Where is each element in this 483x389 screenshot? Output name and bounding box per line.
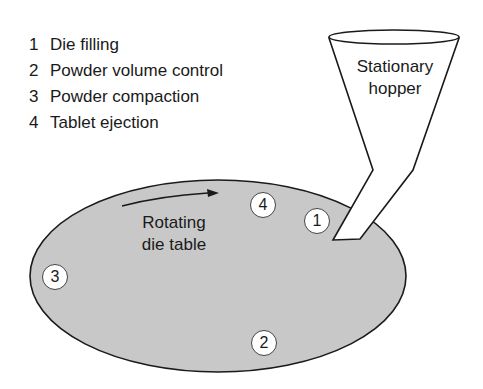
die-table-label-line2: die table	[126, 234, 222, 256]
station-3-badge: 3	[42, 264, 68, 290]
legend-label: Die filling	[50, 32, 119, 58]
tablet-press-diagram: 1 Die filling 2 Powder volume control 3 …	[0, 0, 483, 389]
legend-item: 4 Tablet ejection	[29, 110, 223, 136]
station-4-badge: 4	[250, 192, 276, 218]
legend-label: Powder compaction	[50, 84, 199, 110]
die-table-shape	[30, 180, 406, 372]
legend-number: 3	[29, 84, 50, 110]
hopper-label-line1: Stationary	[348, 56, 442, 78]
legend-item: 2 Powder volume control	[29, 58, 223, 84]
station-1-badge: 1	[304, 208, 330, 234]
die-table-label-line1: Rotating	[126, 212, 222, 234]
legend-label: Tablet ejection	[50, 110, 159, 136]
die-table-label: Rotating die table	[126, 212, 222, 256]
station-legend: 1 Die filling 2 Powder volume control 3 …	[29, 32, 223, 136]
legend-item: 3 Powder compaction	[29, 84, 223, 110]
station-2-badge: 2	[251, 330, 277, 356]
legend-number: 2	[29, 58, 50, 84]
hopper-rim	[329, 30, 459, 44]
legend-number: 4	[29, 110, 50, 136]
legend-item: 1 Die filling	[29, 32, 223, 58]
hopper-label: Stationary hopper	[348, 56, 442, 100]
hopper-label-line2: hopper	[348, 78, 442, 100]
legend-number: 1	[29, 32, 50, 58]
legend-label: Powder volume control	[50, 58, 223, 84]
